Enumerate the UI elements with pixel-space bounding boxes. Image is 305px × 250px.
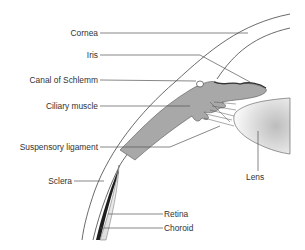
eye-anatomy-diagram: Cornea Iris Canal of Schlemm Ciliary mus… [0, 0, 305, 250]
canal-of-schlemm-shape [197, 81, 204, 87]
label-cornea: Cornea [71, 28, 99, 38]
leader-canal-of-schlemm [100, 80, 196, 81]
label-canal-of-schlemm: Canal of Schlemm [30, 75, 98, 85]
lens-shape [234, 98, 290, 154]
leader-iris [100, 55, 250, 82]
label-sclera: Sclera [48, 176, 72, 186]
label-iris: Iris [87, 50, 98, 60]
label-ciliary-muscle: Ciliary muscle [46, 101, 98, 111]
label-suspensory-ligament: Suspensory ligament [20, 142, 99, 152]
label-retina: Retina [164, 209, 189, 219]
label-choroid: Choroid [164, 223, 194, 233]
label-lens: Lens [246, 172, 264, 182]
cornea-inner-outline [217, 28, 290, 79]
